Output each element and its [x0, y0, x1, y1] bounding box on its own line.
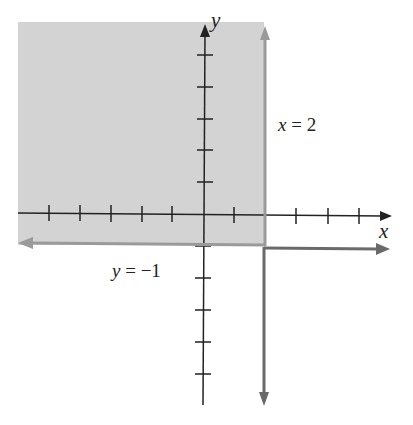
graph-canvas: [0, 0, 413, 425]
line-y-neg1-right-arrow-icon: [376, 243, 390, 255]
shaded-region: [18, 22, 264, 245]
x-axis-label: x: [379, 219, 388, 244]
label-y-equals-neg1: y = −1: [112, 260, 161, 282]
line-y-equals-neg1-right: [264, 248, 378, 249]
label-y-rest: = −1: [120, 260, 160, 281]
line-y-equals-neg1-left: [30, 243, 265, 245]
line-x-2-down-arrow-icon: [259, 392, 269, 406]
label-x-rest: = 2: [286, 114, 316, 135]
label-x-equals-2: x = 2: [278, 114, 316, 136]
y-axis-label: y: [211, 8, 220, 33]
